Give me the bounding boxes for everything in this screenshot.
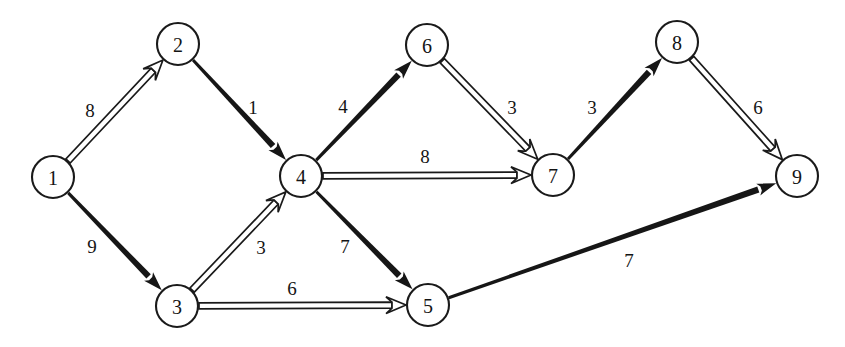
node-3[interactable]: 3 [156,285,198,327]
edge-4-to-6 [315,61,412,161]
node-label: 7 [548,165,558,187]
edge-weight-label: 1 [248,97,258,118]
edge-weight-label: 9 [87,236,97,257]
edge-shaft [315,191,401,278]
edge-weight-label: 7 [340,236,350,257]
node-1[interactable]: 1 [32,156,74,198]
edge-weight-label: 4 [338,96,348,117]
edge-3-to-5 [199,297,406,314]
node-label: 9 [792,166,802,188]
edge-4-to-7 [323,167,531,184]
edge-5-to-9 [448,183,776,299]
edge-shaft [323,172,517,179]
edge-shaft [199,302,392,309]
edge-7-to-8 [567,58,662,160]
edges-layer [66,56,782,313]
node-5[interactable]: 5 [407,284,449,326]
node-label: 3 [172,296,182,318]
edge-labels-layer: 891364873367 [85,96,763,299]
edge-6-to-7 [440,59,538,159]
edge-2-to-4 [192,59,286,160]
node-9[interactable]: 9 [776,155,818,197]
edge-weight-label: 6 [287,278,297,299]
edge-shaft [315,72,401,161]
node-label: 6 [422,35,432,57]
edge-shaft [67,192,151,279]
edge-shaft [448,187,759,300]
edge-3-to-4 [190,192,286,292]
node-label: 8 [672,32,682,54]
graph-svg: 123456789 891364873367 [0,0,845,347]
edge-4-to-5 [315,191,412,290]
edge-shaft [192,59,275,148]
edge-weight-label: 3 [587,97,597,118]
node-6[interactable]: 6 [406,24,448,66]
edge-weight-label: 6 [753,97,763,118]
edge-weight-label: 8 [85,100,95,121]
edge-1-to-3 [67,192,162,290]
edge-8-to-9 [689,56,782,159]
edge-weight-label: 8 [420,146,430,167]
node-4[interactable]: 4 [280,155,322,197]
node-label: 2 [173,34,183,56]
edge-shaft [66,68,156,163]
node-8[interactable]: 8 [656,21,698,63]
edge-weight-label: 3 [507,97,517,118]
node-label: 5 [423,295,433,317]
edge-weight-label: 7 [624,250,634,271]
diagram-canvas: 123456789 891364873367 [0,0,845,347]
edge-shaft [567,70,651,160]
node-label: 1 [48,167,58,189]
node-label: 4 [296,166,306,188]
edge-arrowhead [756,183,776,195]
node-2[interactable]: 2 [157,23,199,65]
node-7[interactable]: 7 [532,154,574,196]
edge-weight-label: 3 [256,237,266,258]
edge-1-to-2 [66,60,163,163]
